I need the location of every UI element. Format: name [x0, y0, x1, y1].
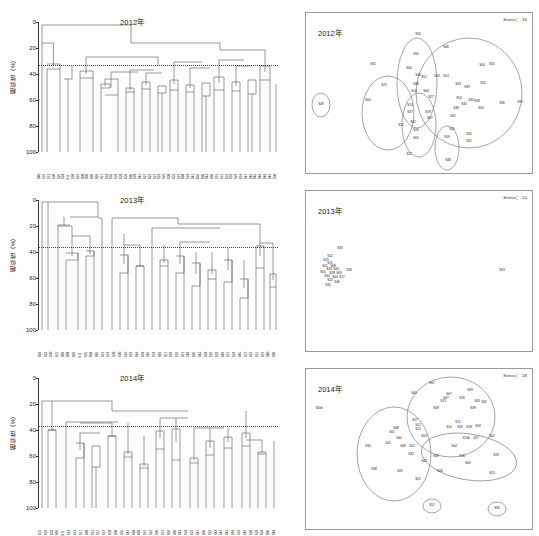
dendrogram-leaf-label: S35: [110, 174, 113, 180]
mds-point: S39: [470, 407, 476, 410]
mds-point: S05: [413, 137, 419, 140]
mds-point: S27: [473, 437, 479, 440]
y-tick-label: 0: [22, 19, 36, 25]
dendrogram-leaf-label: S10: [72, 174, 75, 180]
mds-point: S10: [411, 90, 417, 93]
mds-title-2013: 2013年: [318, 205, 342, 216]
dendrogram-leaf-label: S15: [91, 530, 94, 536]
mds-point: S44: [396, 437, 402, 440]
mds-point: S09: [433, 407, 439, 410]
mds-point: S16: [459, 455, 465, 458]
mds-point: S33: [455, 83, 461, 86]
dendrogram-leaf-label: S17: [164, 352, 167, 358]
mds-point: S32: [370, 63, 376, 66]
dendrogram-leaf-label: S01: [193, 352, 196, 358]
mds-point: S45: [481, 401, 487, 404]
mds-point: S26: [459, 397, 465, 400]
dendrogram-leaf-label: S40: [38, 174, 41, 180]
mds-point: S53: [415, 33, 421, 36]
mds-point: S30: [468, 99, 474, 102]
dendrogram-leaf-label: S12: [220, 174, 223, 180]
dendrogram-leaf-label: S49: [268, 174, 271, 180]
mds-point: S03: [421, 435, 427, 438]
mds-point: S35: [466, 133, 472, 136]
mds-point: S21: [415, 478, 421, 481]
y-tick-label: 20: [22, 45, 36, 51]
dendrogram-tree-2013: [38, 200, 278, 330]
dendrogram-leaf-label: S17: [79, 530, 82, 536]
dendrogram-leaf-label: S33: [172, 174, 175, 180]
dendrogram-leaf-label: S13: [48, 174, 51, 180]
mds-point: S40b: [315, 407, 322, 410]
dendrogram-leaf-label: S24: [187, 174, 190, 180]
dendrogram-ylabel-2012: 相似性（%）: [10, 56, 20, 94]
mds-point: S50: [478, 107, 484, 110]
mds-point: S29: [425, 111, 431, 114]
dendrogram-leaf-label: S45: [226, 530, 229, 536]
dendrogram-leaf-label: S11: [78, 352, 81, 357]
dendrogram-leaf-label: S44: [136, 352, 139, 358]
dendrogram-leaf-label: S17: [100, 174, 103, 180]
y-tick-label: 100: [22, 149, 36, 155]
dendrogram-leaf-label: S02: [232, 530, 235, 536]
dendrogram-leaf-label: S23: [158, 174, 161, 180]
dendrogram-leaf-label: S43: [198, 352, 201, 358]
mds-point: S25: [397, 470, 403, 473]
dendrogram-leaf-label: S29: [130, 352, 133, 358]
dendrogram-leaf-label: S48: [273, 530, 276, 536]
dendrogram-leaf-label: S34: [141, 352, 144, 358]
mds-point: S43: [474, 400, 480, 403]
dendrogram-leaf-label: S32: [230, 174, 233, 180]
dendrogram-plot-area-2014: 0 20 40 60 80 100: [38, 378, 278, 508]
dendrogram-leaf-label: S07: [96, 174, 99, 180]
dendrogram-leaf-label: S31: [43, 174, 46, 180]
mds-point: S12: [398, 124, 404, 127]
dendrogram-leaf-label: S20: [249, 530, 252, 536]
mds-point: S23: [489, 472, 495, 475]
dendrogram-leaf-label: S47: [244, 174, 247, 180]
mds-point: S13b: [462, 437, 469, 440]
mds-point: S01: [389, 431, 395, 434]
dendrogram-leaf-label: S18: [68, 530, 71, 536]
dendrogram-leaf-label: S28: [255, 530, 258, 536]
mds-point: S34: [461, 103, 467, 106]
mds-point: S27: [428, 96, 434, 99]
dendrogram-leaf-label: S08: [67, 352, 70, 358]
dendrogram-leaf-label: S21: [144, 174, 147, 180]
dendrogram-leaf-label: S29: [235, 174, 238, 180]
dendrogram-ylabel-2013: 相似性（%）: [10, 234, 20, 272]
dendrogram-leaf-label: S14: [107, 352, 110, 358]
dendrogram-leaf-label: S20: [118, 352, 121, 358]
dendrogram-leaf-label: S19: [103, 530, 106, 536]
dendrogram-leaf-label: S04: [132, 530, 135, 536]
y-tick-label: 20: [22, 401, 36, 407]
dendrogram-leaf-label: S15: [256, 352, 259, 358]
mds-plot-2012: 2012年 Stress：.16 S49 S53 S56 S40 S45 S51…: [305, 12, 533, 174]
mds-point: S57: [429, 382, 435, 385]
mds-point: S51: [421, 76, 427, 79]
y-tick-label: 0: [22, 197, 36, 203]
dendrogram-leaf-label: S24: [233, 352, 236, 358]
dendrogram-leaf-label: S39: [44, 530, 47, 536]
mds-point: S31: [450, 115, 456, 118]
mds-group-ellipses-2014: [306, 369, 532, 529]
dendrogram-leaf-label: S45: [254, 174, 257, 180]
mds-point: S32: [408, 453, 414, 456]
mds-point: S56: [413, 53, 419, 56]
mds-point: S23: [499, 269, 505, 272]
mds-point: S02: [410, 121, 416, 124]
dendrogram-leaf-label: S01: [196, 174, 199, 180]
dendrogram-leaf-label: S23: [44, 352, 47, 358]
dendrogram-leaf-label: S07: [167, 530, 170, 536]
mds-point: S46: [443, 46, 449, 49]
y-tick-label: 40: [22, 249, 36, 255]
mds-point: S55: [489, 63, 495, 66]
dendrogram-leaf-label: S13: [74, 530, 77, 536]
dendrogram-leaf-label: S19: [261, 352, 264, 358]
dendrogram-leaf-label: S37: [161, 530, 164, 536]
dendrogram-leaf-label: S21: [227, 352, 230, 358]
mds-point: S11: [455, 421, 460, 424]
dendrogram-leaf-label: S43: [206, 174, 209, 180]
dendrogram-leaf-label: S42: [220, 530, 223, 536]
mds-point: S40: [406, 67, 412, 70]
